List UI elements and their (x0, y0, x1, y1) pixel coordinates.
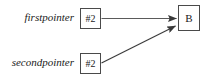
variable-label-firstpointer: firstpointer (0, 12, 74, 23)
variable-label-secondpointer: secondpointer (0, 57, 74, 68)
variable-value-box-firstpointer: #2 (80, 8, 101, 29)
variable-value-box-secondpointer: #2 (80, 53, 101, 74)
pointer-diagram: firstpointer #2 secondpointer #2 B (0, 0, 207, 81)
edge-secondpointer-to-b (102, 26, 176, 63)
target-object-box-b: B (178, 5, 200, 31)
